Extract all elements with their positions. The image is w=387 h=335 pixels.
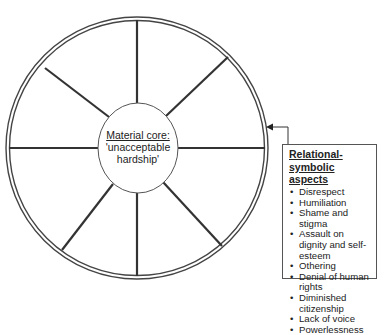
- spoke-upper-right: [166, 57, 228, 116]
- list-item: Diminished citizenship: [289, 293, 372, 314]
- material-core-label: Material core: 'unacceptable hardship': [98, 129, 178, 165]
- box-heading-line2: symbolic aspects: [289, 161, 372, 185]
- list-item: Denial of human rights: [289, 272, 372, 293]
- spoke-upper-left: [45, 68, 109, 117]
- list-item: Disrespect: [289, 187, 372, 198]
- list-item: Assault on dignity and self-esteem: [289, 229, 372, 261]
- relational-symbolic-aspects-box: Relational- symbolic aspects Disrespect …: [282, 144, 377, 279]
- list-item: Shame and stigma: [289, 208, 372, 229]
- list-item: Powerlessness: [289, 325, 372, 335]
- spoke-lower-right: [163, 182, 222, 246]
- core-line2: 'unacceptable: [98, 141, 178, 153]
- connector-arrow: [272, 127, 288, 144]
- box-heading-line1: Relational-: [289, 148, 372, 160]
- aspects-list: Disrespect Humiliation Shame and stigma …: [289, 187, 372, 335]
- core-line3: hardship': [98, 153, 178, 165]
- core-title: Material core:: [98, 129, 178, 141]
- spoke-lower-left: [62, 184, 113, 250]
